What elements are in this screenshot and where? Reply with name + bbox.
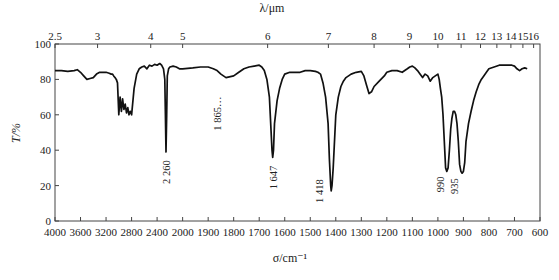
- peak-label: 935: [449, 178, 460, 194]
- x-tick-label: 700: [506, 226, 523, 238]
- top-tick-label: 5: [180, 30, 186, 42]
- y-tick-label: 40: [40, 144, 52, 156]
- x-tick-label: 1700: [248, 226, 271, 238]
- x-tick-label: 1600: [274, 226, 297, 238]
- top-tick-label: 6: [265, 30, 271, 42]
- x-tick-label: 2800: [121, 226, 144, 238]
- x-axis-ticks: 4000360032002800240020001900180017001600…: [44, 217, 549, 238]
- y-tick-label: 80: [40, 73, 52, 85]
- x-tick-label: 1200: [376, 226, 399, 238]
- x-tick-label: 1800: [223, 226, 246, 238]
- x-tick-label: 1000: [427, 226, 450, 238]
- x-tick-label: 1400: [325, 226, 348, 238]
- top-tick-label: 11: [456, 30, 467, 42]
- x-tick-label: 2000: [172, 226, 195, 238]
- top-tick-label: 2.5: [48, 30, 62, 42]
- top-tick-label: 12: [475, 30, 486, 42]
- x-tick-label: 1900: [197, 226, 220, 238]
- x-tick-label: 1300: [350, 226, 373, 238]
- x-tick-label: 3200: [95, 226, 118, 238]
- top-tick-label: 7: [326, 30, 332, 42]
- top-tick-label: 16: [528, 30, 540, 42]
- spectrum-line: [55, 64, 527, 191]
- peak-label: 1 865…: [212, 97, 223, 131]
- y-tick-label: 20: [40, 180, 52, 192]
- y-tick-label: 60: [40, 109, 52, 121]
- ir-spectrum-chart: 020406080100 400036003200280024002000190…: [0, 0, 559, 280]
- y-axis-title: T/%: [9, 123, 23, 143]
- top-tick-label: 8: [371, 30, 377, 42]
- x-tick-label: 2400: [146, 226, 169, 238]
- x-tick-label: 800: [481, 226, 498, 238]
- x-axis-title: σ/cm⁻¹: [273, 251, 308, 265]
- top-tick-label: 14: [505, 30, 517, 42]
- x-tick-label: 1500: [299, 226, 322, 238]
- top-tick-label: 9: [407, 30, 413, 42]
- top-tick-label: 4: [148, 30, 154, 42]
- top-axis-title: λ/μm: [260, 1, 286, 15]
- top-tick-label: 10: [432, 30, 444, 42]
- x-tick-label: 600: [532, 226, 549, 238]
- x-tick-label: 900: [455, 226, 472, 238]
- top-axis-ticks: 2.5345678910111213141516: [48, 30, 539, 48]
- peak-label: 2 260: [161, 160, 172, 184]
- peak-annotations: 2 2601 865…1 6471 418990935: [161, 97, 460, 203]
- peak-label: 1 418: [314, 179, 325, 203]
- top-tick-label: 13: [491, 30, 503, 42]
- peak-label: 1 647: [268, 166, 279, 190]
- peak-label: 990: [435, 176, 446, 192]
- x-tick-label: 3600: [70, 226, 93, 238]
- x-tick-label: 4000: [44, 226, 67, 238]
- x-tick-label: 1100: [402, 226, 424, 238]
- top-tick-label: 3: [95, 30, 101, 42]
